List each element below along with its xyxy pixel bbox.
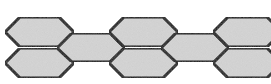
hexagon-bottom-3 [213,48,271,78]
hexagon-top-3 [213,17,271,47]
hexagon-group [5,17,271,78]
hexagon-chain-diagram [0,0,271,84]
